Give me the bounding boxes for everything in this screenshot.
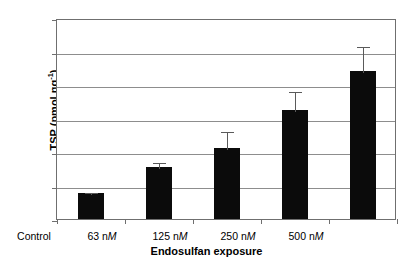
error-bar-stem — [363, 47, 364, 73]
bar — [146, 167, 172, 219]
x-axis-tick-mark — [261, 219, 262, 224]
error-bar-cap — [357, 47, 370, 48]
x-axis-tick-label-unit: M — [108, 230, 117, 242]
x-axis-tick-label-unit: M — [315, 230, 324, 242]
bar — [282, 110, 308, 219]
plot-area: 020406080100120 — [56, 19, 396, 220]
y-axis-tick-mark — [52, 121, 57, 122]
x-axis-tick-mark — [57, 219, 58, 224]
y-axis-title-superscript: -1 — [46, 73, 55, 80]
bar — [350, 71, 376, 219]
x-axis-tick-label-unit: M — [247, 230, 256, 242]
x-axis-title: Endosulfan exposure — [0, 245, 413, 257]
y-axis-tick-mark — [52, 54, 57, 55]
y-axis-tick-mark — [52, 87, 57, 88]
x-axis-tick-label-text: Control — [17, 230, 51, 242]
error-bar-cap — [153, 163, 166, 164]
error-bar-cap — [289, 92, 302, 93]
bar-chart-figure: TSP (pmol ng-1) 020406080100120 Endosulf… — [0, 0, 413, 268]
y-axis-tick-mark — [52, 188, 57, 189]
x-axis-tick-mark — [125, 219, 126, 224]
y-axis-tick-mark — [52, 154, 57, 155]
x-axis-tick-label-text: 500 n — [288, 230, 314, 242]
y-axis-tick-mark — [52, 20, 57, 21]
gridline — [57, 121, 395, 122]
x-axis-tick-label-text: 125 n — [152, 230, 178, 242]
x-axis-tick-mark — [397, 219, 398, 224]
x-axis-tick-label-text: 250 n — [220, 230, 246, 242]
error-bar-stem — [227, 132, 228, 150]
x-axis-tick-label-unit: M — [179, 230, 188, 242]
bar — [214, 148, 240, 219]
x-axis-tick-label-text: 63 n — [87, 230, 107, 242]
bar — [78, 193, 104, 219]
x-axis-tick-mark — [329, 219, 330, 224]
error-bar-cap — [85, 193, 98, 194]
x-axis-tick-mark — [193, 219, 194, 224]
error-bar-cap — [221, 132, 234, 133]
gridline — [57, 87, 395, 88]
error-bar-stem — [295, 92, 296, 111]
x-axis-tick-label: 500 nM — [261, 230, 351, 242]
gridline — [57, 54, 395, 55]
